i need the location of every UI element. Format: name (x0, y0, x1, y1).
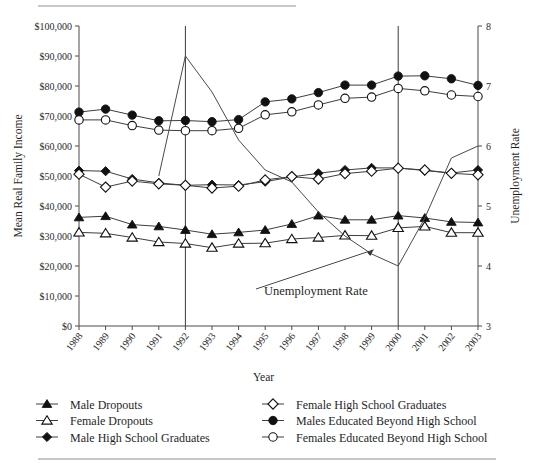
data-point (474, 92, 482, 100)
data-point (128, 111, 136, 119)
legend-item-females-educated-beyond-high-school[interactable]: Females Educated Beyond High School (262, 431, 488, 445)
data-point (288, 95, 296, 103)
legend-marker-filled-circle-icon (269, 416, 277, 424)
data-point (234, 115, 242, 123)
data-point (155, 126, 163, 134)
y-tick-label-left: $40,000 (40, 201, 73, 212)
data-point (181, 127, 189, 135)
legend-label: Female High School Graduates (296, 398, 447, 412)
data-point (447, 91, 455, 99)
data-point (447, 75, 455, 83)
chart-figure: $0$10,000$20,000$30,000$40,000$50,000$60… (0, 0, 534, 469)
legend-label: Males Educated Beyond High School (296, 414, 477, 428)
data-point (341, 81, 349, 89)
y-tick-label-left: $20,000 (40, 261, 73, 272)
data-point (75, 116, 83, 124)
y-tick-label-right: 6 (486, 141, 491, 152)
data-point (261, 98, 269, 106)
y-axis-title-right: Unemployment Rate (509, 128, 522, 224)
income-unemployment-line-chart: $0$10,000$20,000$30,000$40,000$50,000$60… (0, 0, 534, 469)
y-tick-label-right: 7 (486, 81, 491, 92)
y-tick-label-left: $80,000 (40, 81, 73, 92)
data-point (314, 101, 322, 109)
legend-label: Male Dropouts (70, 398, 143, 412)
x-axis-title: Year (253, 371, 274, 383)
data-point (421, 87, 429, 95)
y-tick-label-left: $50,000 (40, 171, 73, 182)
y-tick-label-right: 8 (486, 21, 491, 32)
data-point (101, 105, 109, 113)
data-point (155, 117, 163, 125)
data-point (181, 116, 189, 124)
data-point (394, 84, 402, 92)
data-point (314, 88, 322, 96)
y-tick-label-left: $70,000 (40, 111, 73, 122)
legend-label: Females Educated Beyond High School (296, 431, 488, 445)
y-tick-label-right: 4 (486, 261, 491, 272)
data-point (208, 127, 216, 135)
y-tick-label-left: $100,000 (35, 21, 73, 32)
legend-marker-open-circle-icon (269, 433, 277, 441)
y-tick-label-left: $60,000 (40, 141, 73, 152)
data-point (367, 81, 375, 89)
data-point (208, 118, 216, 126)
legend-label: Male High School Graduates (70, 431, 210, 445)
data-point (234, 124, 242, 132)
legend-label: Female Dropouts (70, 414, 153, 428)
y-tick-label-left: $10,000 (40, 291, 73, 302)
y-tick-label-right: 3 (486, 321, 491, 332)
data-point (474, 81, 482, 89)
data-point (101, 116, 109, 124)
y-tick-label-right: 5 (486, 201, 491, 212)
data-point (261, 111, 269, 119)
data-point (75, 108, 83, 116)
y-axis-title-left: Mean Real Family Income (12, 115, 25, 238)
data-point (128, 121, 136, 129)
data-point (288, 108, 296, 116)
data-point (367, 93, 375, 101)
y-tick-label-left: $90,000 (40, 51, 73, 62)
y-tick-label-left: $30,000 (40, 231, 73, 242)
data-point (421, 72, 429, 80)
data-point (341, 94, 349, 102)
annotation-label: Unemployment Rate (264, 284, 368, 298)
y-tick-label-left: $0 (62, 321, 72, 332)
data-point (394, 72, 402, 80)
